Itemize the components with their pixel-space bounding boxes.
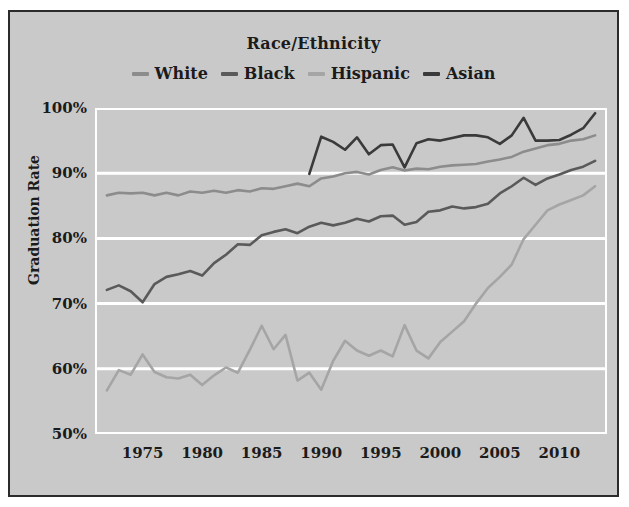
y-axis-tick-label: 100%: [41, 99, 87, 117]
x-axis-tick-label: 2010: [538, 444, 580, 462]
legend-label: Hispanic: [331, 64, 410, 83]
y-axis-tick-label: 80%: [52, 229, 87, 247]
x-axis-tick-label: 2005: [479, 444, 521, 462]
chart-legend: WhiteBlackHispanicAsian: [10, 64, 617, 83]
legend-swatch-icon: [132, 72, 149, 76]
x-axis-tick-label: 1990: [300, 444, 342, 462]
legend-swatch-icon: [423, 72, 440, 76]
legend-label: White: [155, 64, 208, 83]
x-axis-tick-label: 1980: [181, 444, 223, 462]
chart-title: Race/Ethnicity: [10, 34, 617, 53]
x-axis-tick-label: 1975: [122, 444, 164, 462]
y-axis-tick-label: 70%: [52, 295, 87, 313]
legend-swatch-icon: [221, 72, 238, 76]
y-axis-tick-label: 60%: [52, 360, 87, 378]
legend-swatch-icon: [308, 72, 325, 76]
y-axis-tick-label: 90%: [52, 164, 87, 182]
y-axis-tick-label: 50%: [52, 425, 87, 443]
plot-wrapper: 50%60%70%80%90%100%197519801985199019952…: [95, 108, 607, 434]
x-axis-tick-label: 1985: [241, 444, 283, 462]
series-line-black: [107, 161, 595, 302]
plot-lines: [95, 108, 607, 434]
y-axis-label: Graduation Rate: [26, 110, 42, 330]
legend-label: Black: [244, 64, 295, 83]
chart-figure: Race/Ethnicity WhiteBlackHispanicAsian G…: [8, 10, 619, 497]
legend-item-asian[interactable]: Asian: [423, 64, 496, 83]
legend-item-hispanic[interactable]: Hispanic: [308, 64, 410, 83]
legend-item-black[interactable]: Black: [221, 64, 295, 83]
legend-item-white[interactable]: White: [132, 64, 208, 83]
x-axis-tick-label: 1995: [360, 444, 402, 462]
x-axis-tick-label: 2000: [419, 444, 461, 462]
legend-label: Asian: [446, 64, 496, 83]
series-line-hispanic: [107, 186, 595, 390]
